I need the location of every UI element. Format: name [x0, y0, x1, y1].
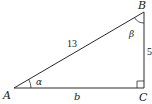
angle-label-alpha: α	[36, 77, 42, 87]
vertex-label-b: B	[137, 0, 146, 12]
right-angle-marker	[137, 81, 144, 88]
right-triangle-diagram: A B C 13 5 b α β	[0, 0, 152, 104]
angle-arc-alpha	[29, 79, 31, 88]
angle-label-beta: β	[128, 29, 134, 39]
side-label-base: b	[74, 91, 80, 102]
angle-arc-beta	[135, 18, 145, 23]
side-label-vertical: 5	[147, 46, 152, 57]
vertex-label-a: A	[2, 89, 11, 102]
side-ab-hypotenuse	[14, 12, 144, 88]
side-label-hypotenuse: 13	[67, 38, 77, 49]
vertex-label-c: C	[139, 91, 148, 104]
